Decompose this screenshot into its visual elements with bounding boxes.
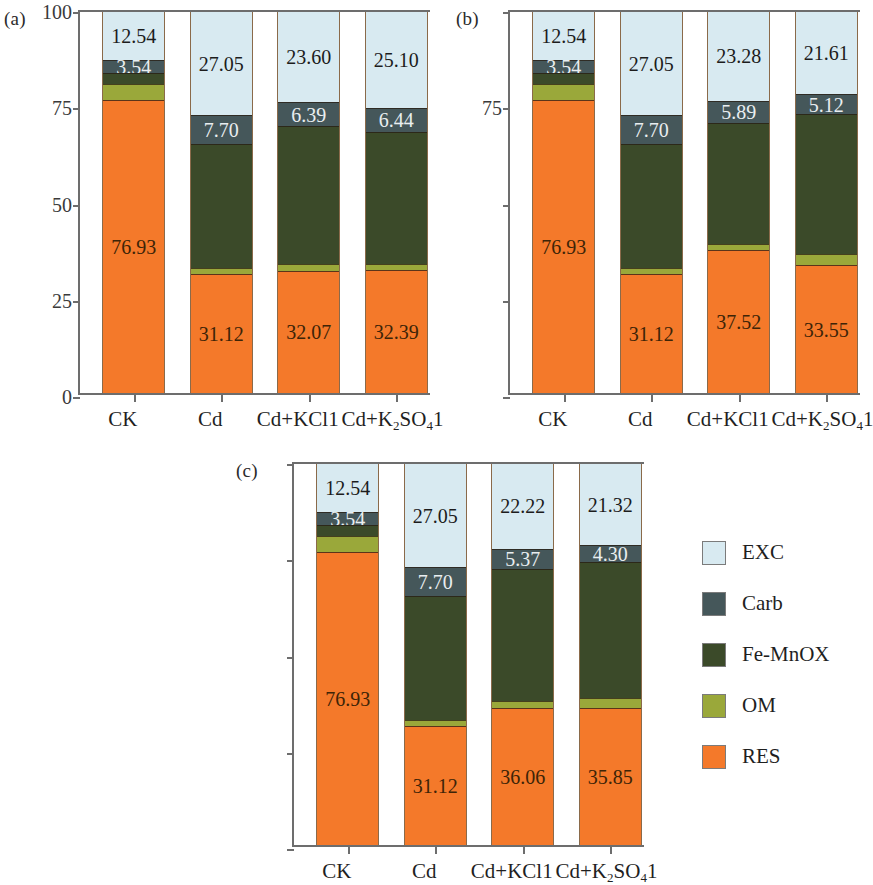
bar-segment-exc[interactable]: 25.10: [366, 12, 427, 108]
bar-segment-res[interactable]: 31.12: [191, 274, 252, 393]
bar-segment-exc[interactable]: 23.28: [708, 12, 769, 101]
x-axis-tick: [651, 393, 653, 402]
legend-item-fe-mnox[interactable]: Fe-MnOX: [702, 642, 830, 667]
bar-segment-exc[interactable]: 12.54: [103, 12, 164, 60]
stacked-bar-Cd+KCl1[interactable]: 22.225.3736.06: [491, 464, 554, 845]
y-axis-tick: [287, 464, 294, 466]
bar-segment-res[interactable]: 35.85: [580, 708, 641, 845]
segment-value-label: 31.12: [413, 776, 458, 796]
y-axis-tick: [503, 301, 510, 303]
bar-segment-carb[interactable]: 4.30: [580, 545, 641, 561]
stacked-bar-CK[interactable]: 12.543.5476.93: [532, 12, 595, 393]
x-axis-tick-label: Cd+KCl1: [468, 859, 556, 884]
legend-swatch-icon: [702, 541, 726, 565]
bar-segment-res[interactable]: 36.06: [492, 708, 553, 845]
bar-segment-res[interactable]: 32.07: [278, 271, 339, 393]
bar-segment-fe-mnox[interactable]: [621, 144, 682, 268]
bar-segment-carb[interactable]: 3.54: [103, 60, 164, 73]
bar-segment-fe-mnox[interactable]: [317, 525, 378, 536]
bar-segment-exc[interactable]: 27.05: [191, 12, 252, 115]
bar-segment-fe-mnox[interactable]: [580, 562, 641, 699]
stacked-bar-Cd+K2SO41[interactable]: 21.324.3035.85: [579, 464, 642, 845]
x-axis-tick: [610, 845, 612, 854]
y-axis-tick-label: 0: [62, 386, 72, 409]
legend-item-om[interactable]: OM: [702, 693, 830, 718]
bar-segment-exc[interactable]: 12.54: [533, 12, 594, 60]
legend-item-res[interactable]: RES: [702, 744, 830, 769]
stacked-bar-Cd[interactable]: 27.057.7031.12: [620, 12, 683, 393]
stacked-bar-Cd+KCl1[interactable]: 23.285.8937.52: [707, 12, 770, 393]
bar-segment-carb[interactable]: 5.89: [708, 101, 769, 123]
bar-segment-om[interactable]: [580, 698, 641, 708]
panel-tag-b: (b): [456, 8, 479, 30]
bar-segment-exc[interactable]: 21.32: [580, 464, 641, 545]
segment-value-label: 27.05: [413, 506, 458, 526]
stacked-bar-Cd+K2SO41[interactable]: 21.615.1233.55: [795, 12, 858, 393]
bar-segment-exc[interactable]: 27.05: [405, 464, 466, 567]
bar-segment-exc[interactable]: 22.22: [492, 464, 553, 549]
y-axis-tick: [503, 108, 510, 110]
bar-segment-carb[interactable]: 3.54: [317, 512, 378, 525]
x-axis-labels: CKCdCd+KCl1Cd+K2SO41: [79, 407, 429, 432]
y-axis-tick-label: 75: [52, 97, 72, 120]
bar-segment-fe-mnox[interactable]: [492, 569, 553, 701]
bar-segment-res[interactable]: 37.52: [708, 250, 769, 393]
segment-value-label: 12.54: [325, 478, 370, 498]
bar-segment-carb[interactable]: 6.44: [366, 108, 427, 133]
bar-segment-res[interactable]: 76.93: [103, 100, 164, 393]
bar-segment-om[interactable]: [278, 264, 339, 271]
bar-segment-res[interactable]: 33.55: [796, 265, 857, 393]
bar-segment-exc[interactable]: 23.60: [278, 12, 339, 102]
bar-segment-carb[interactable]: 7.70: [191, 115, 252, 144]
bar-segment-exc[interactable]: 21.61: [796, 12, 857, 94]
stacked-bar-Cd+KCl1[interactable]: 23.606.3932.07: [277, 12, 340, 393]
bar-segment-res[interactable]: 76.93: [533, 100, 594, 393]
bar-segment-fe-mnox[interactable]: [533, 73, 594, 84]
legend-swatch-icon: [702, 643, 726, 667]
x-axis-tick-label: Cd+KCl1: [684, 407, 772, 432]
segment-value-label: 6.39: [291, 105, 326, 125]
bar-segment-carb[interactable]: 5.12: [796, 94, 857, 114]
bar-segment-res[interactable]: 32.39: [366, 270, 427, 393]
legend-item-exc[interactable]: EXC: [702, 540, 830, 565]
bar-segment-om[interactable]: [533, 84, 594, 100]
y-axis-tick: [73, 397, 80, 399]
stacked-bar-Cd[interactable]: 27.057.7031.12: [190, 12, 253, 393]
bar-segment-carb[interactable]: 6.39: [278, 102, 339, 126]
segment-value-label: 7.70: [418, 572, 453, 592]
bar-segment-om[interactable]: [317, 536, 378, 552]
segment-value-label: 7.70: [204, 120, 239, 140]
bar-segment-fe-mnox[interactable]: [191, 144, 252, 268]
bar-segment-res[interactable]: 76.93: [317, 552, 378, 845]
stacked-bar-CK[interactable]: 12.543.5476.93: [316, 464, 379, 845]
legend-label: RES: [742, 744, 781, 769]
bar-segment-carb[interactable]: 7.70: [621, 115, 682, 144]
y-axis-tick: [287, 560, 294, 562]
bar-segment-res[interactable]: 31.12: [405, 726, 466, 845]
stacked-bar-CK[interactable]: 12.543.5476.93: [102, 12, 165, 393]
bar-segment-fe-mnox[interactable]: [405, 596, 466, 720]
bar-segment-fe-mnox[interactable]: [366, 132, 427, 264]
bar-segment-res[interactable]: 31.12: [621, 274, 682, 393]
bar-segment-carb[interactable]: 7.70: [405, 567, 466, 596]
bar-segment-fe-mnox[interactable]: [708, 123, 769, 244]
bar-segment-exc[interactable]: 27.05: [621, 12, 682, 115]
segment-value-label: 21.61: [804, 43, 849, 63]
bar-segment-carb[interactable]: 3.54: [533, 60, 594, 73]
bar-segment-carb[interactable]: 5.37: [492, 549, 553, 569]
stacked-bar-Cd[interactable]: 27.057.7031.12: [404, 464, 467, 845]
bar-segment-om[interactable]: [103, 84, 164, 100]
x-axis-tick: [309, 393, 311, 402]
bar-segment-om[interactable]: [796, 254, 857, 265]
legend-item-carb[interactable]: Carb: [702, 591, 830, 616]
x-axis-tick-label: CK: [79, 407, 167, 432]
legend: EXCCarbFe-MnOXOMRES: [702, 540, 830, 769]
bar-segment-fe-mnox[interactable]: [796, 114, 857, 255]
bar-segment-exc[interactable]: 12.54: [317, 464, 378, 512]
stacked-bar-Cd+K2SO41[interactable]: 25.106.4432.39: [365, 12, 428, 393]
x-axis-labels: CKCdCd+KCl1Cd+K2SO41: [293, 859, 643, 884]
segment-value-label: 37.52: [716, 312, 761, 332]
bar-segment-fe-mnox[interactable]: [278, 126, 339, 264]
bar-segment-fe-mnox[interactable]: [103, 73, 164, 84]
segment-value-label: 32.39: [374, 322, 419, 342]
